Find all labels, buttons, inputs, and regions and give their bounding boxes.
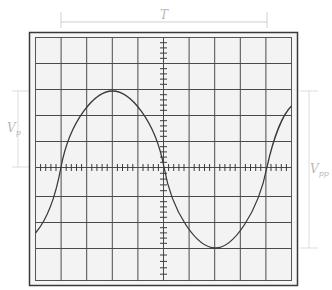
- peak-voltage-label: Vp: [7, 121, 21, 137]
- oscilloscope-diagram: T Vp Vpp: [0, 0, 332, 290]
- period-label: T: [160, 8, 169, 22]
- peak-to-peak-label: Vpp: [310, 162, 329, 178]
